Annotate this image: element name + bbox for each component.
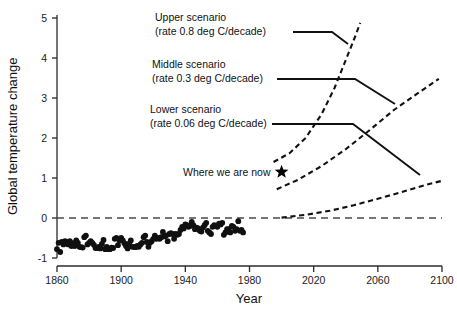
y-tick-label: -1 <box>38 252 47 264</box>
x-tick-label: 1980 <box>238 274 262 286</box>
x-tick-label: 1940 <box>174 274 198 286</box>
middle-scenario-label-line2: (rate 0.3 deg C/decade) <box>152 72 263 84</box>
upper-scenario-leader <box>293 32 348 44</box>
observed-data-points <box>54 218 246 255</box>
y-tick-label: 1 <box>41 172 47 184</box>
middle-scenario-leader <box>277 79 395 104</box>
y-tick-label: 3 <box>41 92 47 104</box>
where-we-are-now-star-icon <box>275 165 289 178</box>
data-point <box>83 233 89 239</box>
x-tick-label: 1900 <box>109 274 133 286</box>
data-point <box>80 245 86 251</box>
y-tick-label: 4 <box>41 52 47 64</box>
y-axis-title: Global temperature change <box>5 57 20 215</box>
lower-scenario-label-line1: Lower scenario <box>150 103 221 115</box>
data-point <box>240 230 246 236</box>
x-axis-ticks: 1860190019401980202020602100 <box>45 266 454 286</box>
y-tick-label: 5 <box>41 12 47 24</box>
data-point <box>219 220 225 226</box>
upper-scenario-label-line2: (rate 0.8 deg C/decade) <box>155 25 266 37</box>
x-tick-label: 2060 <box>366 274 390 286</box>
middle-scenario-label-line1: Middle scenario <box>152 58 226 70</box>
lower-scenario-curve <box>282 181 442 218</box>
data-point <box>142 233 148 239</box>
data-point <box>57 249 63 255</box>
data-point <box>235 218 241 224</box>
upper-scenario-label-line1: Upper scenario <box>155 11 226 23</box>
middle-scenario-curve <box>277 79 439 189</box>
data-point <box>208 231 214 237</box>
y-tick-label: 0 <box>41 212 47 224</box>
data-point <box>165 238 171 244</box>
y-axis-ticks: -1012345 <box>38 12 57 264</box>
y-tick-label: 2 <box>41 132 47 144</box>
data-point <box>128 238 134 244</box>
where-we-are-now-label: Where we are now <box>183 166 271 178</box>
data-point <box>101 237 107 243</box>
data-point <box>203 220 209 226</box>
x-axis-title: Year <box>236 291 263 306</box>
x-tick-label: 2020 <box>302 274 326 286</box>
x-tick-label: 1860 <box>45 274 69 286</box>
x-tick-label: 2100 <box>430 274 454 286</box>
lower-scenario-label-line2: (rate 0.06 deg C/decade) <box>150 117 267 129</box>
chart-canvas: -1012345 1860190019401980202020602100 Gl… <box>0 0 457 321</box>
climate-projection-chart: -1012345 1860190019401980202020602100 Gl… <box>0 0 457 321</box>
